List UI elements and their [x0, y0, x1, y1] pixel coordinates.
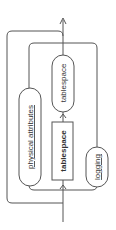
railroad-diagram: physical attributes tablespace tablespac…: [0, 0, 116, 230]
tablespace-keyword-label: tablespace: [59, 130, 68, 172]
tablespace-nonterminal-label: tablespace: [59, 63, 68, 102]
physical-attributes-label: physical attributes: [26, 105, 35, 169]
logging-label: logging: [93, 154, 102, 180]
logging-node[interactable]: logging: [86, 147, 108, 187]
physical-attributes-node[interactable]: physical attributes: [19, 88, 41, 186]
tablespace-keyword-node: tablespace: [52, 122, 73, 180]
tablespace-nonterminal-node[interactable]: tablespace: [52, 55, 74, 112]
